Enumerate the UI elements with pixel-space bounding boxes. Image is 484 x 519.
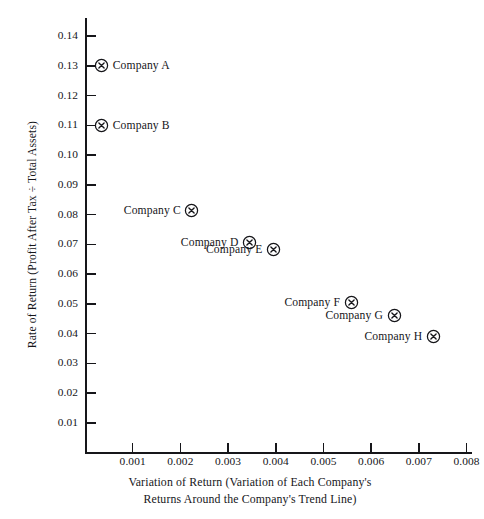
data-point-marker[interactable] bbox=[94, 58, 109, 73]
y-tick-label: 0.04 bbox=[34, 328, 78, 339]
y-tick bbox=[86, 363, 96, 365]
y-tick bbox=[86, 273, 96, 275]
y-tick bbox=[86, 95, 96, 97]
x-axis-title: Variation of Return (Variation of Each C… bbox=[40, 474, 460, 507]
y-tick bbox=[86, 392, 96, 394]
x-tick bbox=[275, 443, 277, 453]
y-tick bbox=[86, 333, 96, 335]
y-tick-label: 0.08 bbox=[34, 209, 78, 220]
data-point-marker[interactable] bbox=[266, 242, 281, 257]
y-tick-label: 0.12 bbox=[34, 90, 78, 101]
y-tick-label: 0.13 bbox=[34, 60, 78, 71]
y-tick-label: 0.02 bbox=[34, 387, 78, 398]
x-tick bbox=[323, 443, 325, 453]
data-point-marker[interactable] bbox=[387, 308, 402, 323]
y-tick-label: 0.11 bbox=[34, 119, 78, 130]
data-point-marker[interactable] bbox=[94, 118, 109, 133]
x-tick-label: 0.008 bbox=[437, 456, 484, 467]
x-tick bbox=[418, 443, 420, 453]
data-point-label: Company B bbox=[113, 120, 170, 132]
y-tick-label: 0.06 bbox=[34, 268, 78, 279]
y-tick-label: 0.01 bbox=[34, 417, 78, 428]
data-point-label: Company G bbox=[325, 310, 383, 322]
x-tick bbox=[180, 443, 182, 453]
y-tick bbox=[86, 244, 96, 246]
y-tick bbox=[86, 35, 96, 37]
data-point-label: Company A bbox=[113, 60, 170, 72]
y-tick-label: 0.14 bbox=[34, 30, 78, 41]
data-point-label: Company H bbox=[364, 331, 422, 343]
data-point-label: Company E bbox=[206, 244, 262, 256]
x-axis-title-line-1: Variation of Return (Variation of Each C… bbox=[128, 475, 371, 489]
y-tick-label: 0.10 bbox=[34, 149, 78, 160]
y-axis-title: Rate of Return (Profit After Tax ÷ Total… bbox=[26, 35, 39, 435]
y-tick-label: 0.09 bbox=[34, 179, 78, 190]
y-tick bbox=[86, 303, 96, 305]
x-axis-title-line-2: Returns Around the Company's Trend Line) bbox=[40, 491, 460, 508]
data-point-label: Company C bbox=[124, 205, 181, 217]
x-axis-line bbox=[85, 452, 472, 454]
y-tick bbox=[86, 422, 96, 424]
x-tick bbox=[132, 443, 134, 453]
y-tick bbox=[86, 214, 96, 216]
data-point-marker[interactable] bbox=[426, 329, 441, 344]
x-tick bbox=[227, 443, 229, 453]
data-point-marker[interactable] bbox=[184, 203, 199, 218]
x-tick bbox=[466, 443, 468, 453]
y-tick-label: 0.07 bbox=[34, 238, 78, 249]
y-axis-line bbox=[85, 18, 87, 454]
y-tick bbox=[86, 184, 96, 186]
y-tick-label: 0.05 bbox=[34, 298, 78, 309]
x-tick bbox=[370, 443, 372, 453]
y-tick bbox=[86, 154, 96, 156]
data-point-label: Company F bbox=[284, 297, 340, 309]
y-tick-label: 0.03 bbox=[34, 357, 78, 368]
